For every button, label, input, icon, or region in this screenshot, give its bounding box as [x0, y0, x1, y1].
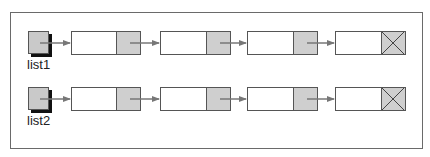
- pointer-arrows: [0, 0, 430, 157]
